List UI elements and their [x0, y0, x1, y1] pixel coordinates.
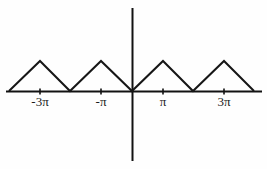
x-tick-label-neg-pi: -π [83, 95, 119, 108]
triangle-wave-figure: -3π -π π 3π [0, 0, 267, 169]
x-tick-label-neg-3pi: -3π [20, 95, 60, 108]
x-tick-label-pi: π [148, 95, 178, 108]
plot-canvas [0, 0, 267, 169]
x-tick-label-3pi: 3π [205, 95, 243, 108]
